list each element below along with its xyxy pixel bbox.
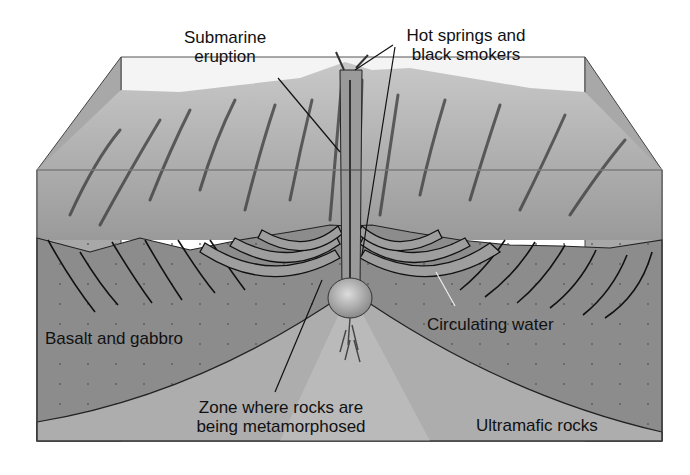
label-basalt-gabbro: Basalt and gabbro [45, 329, 183, 348]
label-line: Hot springs and [396, 26, 536, 45]
label-line: Zone where rocks are [176, 398, 386, 417]
label-hot-springs: Hot springs and black smokers [396, 26, 536, 64]
label-circulating-water: Circulating water [427, 315, 554, 334]
ridge-diagram: Submarine eruption Hot springs and black… [0, 0, 690, 475]
label-submarine-eruption: Submarine eruption [170, 28, 280, 66]
label-line: black smokers [396, 45, 536, 64]
label-line: being metamorphosed [176, 417, 386, 436]
label-line: eruption [170, 47, 280, 66]
label-metamorphic-zone: Zone where rocks are being metamorphosed [176, 398, 386, 436]
label-ultramafic: Ultramafic rocks [476, 416, 598, 435]
label-line: Submarine [170, 28, 280, 47]
